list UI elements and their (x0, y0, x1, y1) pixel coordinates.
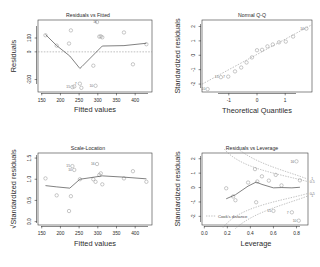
y-axis: -2000100 (27, 26, 37, 84)
svg-text:-200: -200 (27, 74, 32, 84)
x-axis-label: Fitted values (74, 239, 116, 248)
y-axis-label: Standardized residuals (173, 151, 182, 226)
x-axis: 150200250300350400 (38, 226, 148, 236)
y-axis-label: Standardized residuals (173, 18, 182, 93)
legend: Cook's distance (206, 214, 248, 219)
svg-text:7: 7 (223, 75, 225, 79)
svg-text:0.4: 0.4 (247, 231, 254, 236)
y-axis: -2-1012 (191, 24, 201, 88)
svg-text:200: 200 (56, 231, 64, 236)
y-axis-label: Residuals (9, 39, 18, 72)
svg-text:15: 15 (267, 209, 271, 213)
diagnostic-plot-grid: Residuals vs Fitted -2000100 15020025030… (0, 0, 320, 267)
y-axis-label: √Standardized residuals (9, 149, 18, 229)
svg-text:300: 300 (94, 231, 102, 236)
legend-label: Cook's distance (218, 214, 248, 219)
svg-text:0: 0 (191, 54, 196, 57)
svg-text:1.0: 1.0 (27, 176, 32, 183)
svg-text:1: 1 (311, 194, 313, 198)
x-axis: 0.00.20.40.60.8 (201, 226, 300, 236)
svg-text:16: 16 (290, 160, 294, 164)
chart-title: Scale-Location (71, 145, 105, 151)
svg-text:0: 0 (27, 50, 32, 53)
svg-text:16: 16 (300, 27, 304, 31)
svg-text:300: 300 (94, 98, 102, 103)
svg-text:100: 100 (27, 34, 32, 42)
y-axis: 0.00.51.01.5 (27, 154, 37, 225)
svg-text:10: 10 (293, 219, 297, 223)
svg-text:15: 15 (66, 85, 70, 89)
lowess-curve (45, 176, 146, 188)
svg-text:7: 7 (75, 82, 77, 86)
y-axis: -2-1012 (191, 156, 201, 222)
cooks-distance-contour-labels: 0.50.511 (310, 177, 315, 198)
x-axis: -101 (218, 93, 296, 103)
svg-text:16: 16 (93, 20, 97, 24)
plot-frame (38, 153, 152, 225)
svg-text:1: 1 (284, 98, 287, 103)
svg-text:0: 0 (191, 186, 196, 189)
x-axis: 150200250300350400 (38, 93, 148, 103)
panel-residuals-vs-fitted: Residuals vs Fitted -2000100 15020025030… (0, 0, 160, 133)
svg-text:-1: -1 (227, 98, 232, 103)
svg-text:1.5: 1.5 (27, 154, 32, 161)
svg-text:1: 1 (311, 177, 313, 181)
chart-title: Residuals vs Fitted (66, 12, 110, 18)
svg-text:16: 16 (91, 162, 95, 166)
data-points (206, 27, 308, 91)
svg-text:10: 10 (68, 168, 72, 172)
svg-text:2: 2 (191, 157, 196, 160)
lowess-curve (226, 182, 300, 199)
svg-text:-1: -1 (191, 199, 196, 204)
point-labels: 151016 (66, 162, 95, 172)
svg-text:10: 10 (89, 84, 93, 88)
svg-text:15: 15 (215, 75, 219, 79)
svg-text:0.8: 0.8 (293, 231, 300, 236)
svg-text:150: 150 (38, 231, 46, 236)
svg-text:0.2: 0.2 (224, 231, 231, 236)
x-axis-label: Theoretical Quantiles (222, 106, 292, 115)
svg-text:0.6: 0.6 (270, 231, 277, 236)
x-axis-label: Leverage (241, 239, 272, 248)
svg-text:400: 400 (131, 231, 139, 236)
svg-text:-2: -2 (191, 214, 196, 219)
data-points (44, 20, 148, 89)
svg-text:0.5: 0.5 (27, 197, 32, 204)
svg-text:250: 250 (75, 231, 83, 236)
svg-text:400: 400 (131, 98, 139, 103)
residuals-vs-leverage-svg: Residuals vs Leverage -2-1012 0.00.20.40… (160, 133, 320, 267)
svg-text:0: 0 (256, 98, 259, 103)
scale-location-svg: Scale-Location 0.00.51.01.5 150200250300… (0, 133, 160, 267)
svg-text:-1: -1 (191, 67, 196, 72)
data-points (44, 162, 148, 212)
svg-text:200: 200 (56, 98, 64, 103)
plot-frame (38, 20, 152, 92)
svg-text:250: 250 (75, 98, 83, 103)
point-labels: 1571610 (267, 160, 296, 223)
svg-text:2: 2 (191, 25, 196, 28)
panel-residuals-vs-leverage: Residuals vs Leverage -2-1012 0.00.20.40… (160, 133, 320, 267)
svg-text:10: 10 (202, 87, 206, 91)
normal-qq-svg: Normal Q-Q -2-1012 -101 1015716 Theoreti… (160, 0, 320, 133)
svg-text:-2: -2 (191, 82, 196, 87)
x-axis-label: Fitted values (74, 105, 116, 114)
panel-normal-qq: Normal Q-Q -2-1012 -101 1015716 Theoreti… (160, 0, 320, 133)
svg-text:0.0: 0.0 (201, 231, 208, 236)
svg-text:350: 350 (112, 231, 120, 236)
svg-text:1: 1 (191, 39, 196, 42)
svg-text:150: 150 (38, 98, 46, 103)
plot-frame (202, 20, 312, 92)
chart-title: Residuals vs Leverage (226, 145, 279, 151)
residuals-vs-fitted-svg: Residuals vs Fitted -2000100 15020025030… (0, 0, 160, 133)
svg-text:0.0: 0.0 (27, 218, 32, 225)
point-labels: 1571016 (66, 20, 97, 89)
svg-text:350: 350 (112, 98, 120, 103)
panel-scale-location: Scale-Location 0.00.51.01.5 150200250300… (0, 133, 160, 267)
svg-text:7: 7 (287, 211, 289, 215)
svg-text:1: 1 (191, 171, 196, 174)
chart-title: Normal Q-Q (238, 12, 266, 18)
